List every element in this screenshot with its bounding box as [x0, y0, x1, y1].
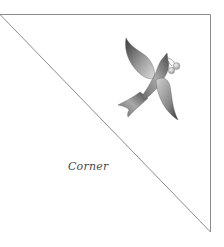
triangle-outline: [0, 15, 211, 233]
cherry-icon: [168, 67, 174, 73]
corner-label: Corner: [68, 160, 108, 173]
bird-with-cherries-icon: [118, 38, 180, 120]
corner-figure: [0, 0, 224, 247]
